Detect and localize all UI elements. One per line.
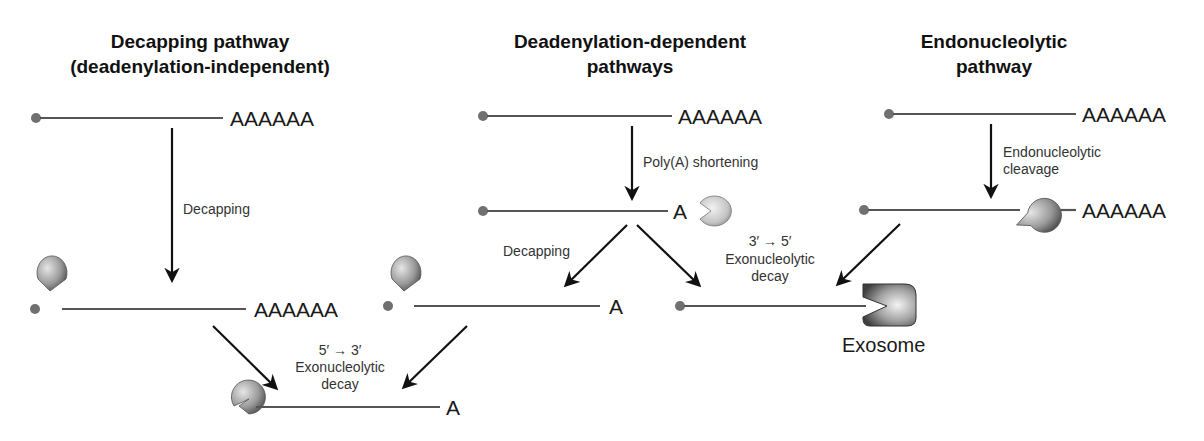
polya-tail: AAAAAA — [678, 105, 762, 128]
decapping-branch-arrow — [566, 225, 627, 285]
deadenylase-icon — [700, 196, 731, 226]
five-to-three-label-line2: Exonucleolytic — [295, 359, 385, 375]
intact-mrna: AAAAAA — [884, 103, 1166, 126]
released-cap-icon — [383, 301, 393, 311]
cap-icon — [675, 301, 685, 311]
decapping-enzyme-icon — [391, 256, 421, 291]
deadenylation-title-line2: pathways — [587, 56, 674, 77]
decapping-branch-label: Decapping — [503, 243, 570, 259]
exonucleolytic-branch-arrow — [637, 225, 699, 285]
decapping-step-label: Decapping — [183, 201, 250, 217]
decapping-pathway-column: Decapping pathway (deadenylation-indepen… — [30, 31, 338, 321]
decapped-mrna: AAAAAA — [30, 256, 338, 321]
three-to-five-label-line3: decay — [751, 268, 788, 284]
endonucleolytic-title-line2: pathway — [956, 56, 1032, 77]
xrn1-exonuclease-icon — [231, 380, 265, 414]
polya-tail: AAAAAA — [254, 298, 338, 321]
decapping-enzyme-icon — [37, 256, 67, 291]
three-to-five-label-line1: 3′ → 5′ — [749, 233, 792, 249]
cleaved-mrna: AAAAAA — [859, 196, 1166, 237]
polya-tail: AAAAAA — [230, 107, 314, 130]
cap-icon — [884, 109, 894, 119]
endonucleolytic-label-line1: Endonucleolytic — [1003, 144, 1101, 160]
arrow-to-exosome — [838, 224, 900, 284]
polya-shortening-label: Poly(A) shortening — [643, 154, 758, 170]
three-to-five-label-line2: Exonucleolytic — [725, 251, 815, 267]
mrna-decay-diagram: Decapping pathway (deadenylation-indepen… — [0, 0, 1204, 441]
exosome-label: Exosome — [842, 334, 925, 356]
cap-icon — [478, 206, 488, 216]
cap-icon — [859, 205, 869, 215]
arrow-from-decapping — [213, 326, 276, 388]
intact-mrna: AAAAAA — [478, 105, 762, 128]
endonucleolytic-pathway-column: Endonucleolytic pathway AAAAAA Endonucle… — [838, 31, 1166, 284]
single-a-tail: A — [609, 295, 623, 318]
five-to-three-label-line3: decay — [321, 376, 358, 392]
five-to-three-label-line1: 5′ → 3′ — [319, 342, 362, 358]
deadenylation-pathway-column: Deadenylation-dependent pathways AAAAAA … — [383, 31, 815, 318]
cap-icon — [31, 113, 41, 123]
deadenylated-mrna: A — [478, 196, 731, 226]
endonucleolytic-label-line2: cleavage — [1003, 161, 1059, 177]
polya-tail: AAAAAA — [1082, 103, 1166, 126]
single-a-tail: A — [446, 396, 460, 419]
arrow-from-deadenylation — [404, 326, 467, 387]
cap-icon — [478, 111, 488, 121]
polya-tail: AAAAAA — [1082, 199, 1166, 222]
single-a-tail: A — [673, 200, 687, 223]
exosome-icon — [863, 284, 916, 326]
decapping-title-line1: Decapping pathway — [111, 31, 290, 52]
released-cap-icon — [30, 304, 40, 314]
endonuclease-icon — [1013, 196, 1064, 237]
decapping-title-line2: (deadenylation-independent) — [70, 56, 330, 77]
intact-mrna: AAAAAA — [31, 107, 314, 130]
deadenylation-title-line1: Deadenylation-dependent — [514, 31, 747, 52]
exosome-decay: Exosome — [675, 284, 925, 356]
endonucleolytic-title-line1: Endonucleolytic — [921, 31, 1068, 52]
five-to-three-decay: 5′ → 3′ Exonucleolytic decay A — [213, 326, 467, 419]
